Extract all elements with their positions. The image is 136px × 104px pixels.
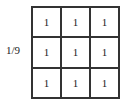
kernel-cell: 1: [90, 7, 119, 37]
kernel-cell: 1: [61, 37, 90, 67]
scale-factor-label: 1/9: [6, 44, 20, 56]
kernel-cell: 1: [90, 37, 119, 67]
kernel-cell: 1: [32, 68, 61, 98]
kernel-cell: 1: [90, 68, 119, 98]
kernel-cell: 1: [61, 7, 90, 37]
kernel-cell: 1: [32, 7, 61, 37]
kernel-grid: 1 1 1 1 1 1 1 1 1: [31, 6, 120, 99]
kernel-cell: 1: [32, 37, 61, 67]
kernel-cell: 1: [61, 68, 90, 98]
